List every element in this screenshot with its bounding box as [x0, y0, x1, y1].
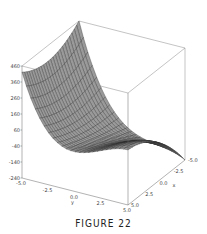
- z-tick-label: 160: [10, 111, 20, 117]
- y-tick-label: 5.0: [123, 207, 131, 213]
- y-tick-label: -2.5: [43, 187, 53, 193]
- x-tick-label: -5.0: [188, 157, 198, 163]
- z-tick-label: -140: [9, 159, 20, 165]
- x-tick-label: 2.5: [145, 191, 153, 197]
- x-tick-label: 0.0: [160, 180, 168, 186]
- y-axis-label: y: [71, 199, 74, 206]
- z-tick-label: -40: [12, 143, 20, 149]
- z-tick-label: 260: [10, 95, 20, 101]
- y-tick-label: 2.5: [97, 200, 105, 206]
- x-axis: -5.0-2.50.02.55.0x: [131, 157, 198, 208]
- y-axis: -5.0-2.50.02.55.0y: [16, 180, 131, 213]
- surface-plot: 46036026016060-40-140-240 -5.0-2.50.02.5…: [0, 0, 207, 215]
- x-tick-label: 5.0: [131, 202, 139, 208]
- z-axis: 46036026016060-40-140-240: [9, 63, 22, 181]
- z-tick-label: 360: [10, 79, 20, 85]
- y-tick-label: -5.0: [16, 180, 26, 186]
- x-axis-label: x: [173, 182, 176, 188]
- figure-caption: FIGURE 22: [19, 217, 189, 230]
- z-tick-label: 460: [10, 63, 20, 69]
- z-tick-label: 60: [14, 127, 20, 133]
- x-tick-label: -2.5: [174, 168, 184, 174]
